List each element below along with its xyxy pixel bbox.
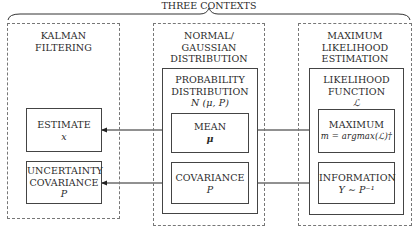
uncertainty-covariance-box: UNCERTAINTY COVARIANCE P: [26, 161, 102, 204]
group-label: PROBABILITY: [163, 74, 257, 86]
box-label: COVARIANCE: [27, 177, 101, 189]
box-math: x: [27, 131, 101, 143]
header-line: DISTRIBUTION: [153, 53, 265, 65]
context-header-kalman: KALMAN FILTERING: [7, 30, 120, 53]
group-math: ℒ: [310, 97, 403, 109]
header-line: LIKELIHOOD: [298, 42, 412, 54]
box-label: INFORMATION: [319, 172, 394, 184]
brace-icon: [8, 8, 410, 20]
header-line: ESTIMATION: [298, 53, 412, 65]
box-math: μ: [172, 133, 248, 145]
header-line: MAXIMUM: [298, 30, 412, 42]
group-label: FUNCTION: [310, 86, 403, 98]
box-math: P: [172, 184, 248, 196]
maximum-box: MAXIMUM m = argmax(ℒ)†: [318, 109, 395, 153]
mean-box: MEAN μ: [171, 113, 249, 153]
covariance-box: COVARIANCE P: [171, 162, 249, 204]
box-label: COVARIANCE: [172, 172, 248, 184]
context-header-mle: MAXIMUM LIKELIHOOD ESTIMATION: [298, 30, 412, 65]
header-line: FILTERING: [7, 42, 120, 54]
header-line: KALMAN: [7, 30, 120, 42]
box-math: m = argmax(ℒ)†: [319, 131, 394, 143]
box-math: P: [27, 188, 101, 200]
box-label: ESTIMATE: [27, 119, 101, 131]
header-line: NORMAL/: [153, 30, 265, 42]
information-box: INFORMATION Y ∼ P⁻¹: [318, 162, 395, 204]
context-header-normal: NORMAL/ GAUSSIAN DISTRIBUTION: [153, 30, 265, 65]
group-math: N (μ, P): [163, 97, 257, 109]
group-label: DISTRIBUTION: [163, 86, 257, 98]
box-label: MEAN: [172, 121, 248, 133]
box-label: UNCERTAINTY: [27, 165, 101, 177]
box-label: MAXIMUM: [319, 119, 394, 131]
group-label: LIKELIHOOD: [310, 74, 403, 86]
estimate-box: ESTIMATE x: [26, 108, 102, 152]
header-line: GAUSSIAN: [153, 42, 265, 54]
box-math: Y ∼ P⁻¹: [319, 184, 394, 196]
